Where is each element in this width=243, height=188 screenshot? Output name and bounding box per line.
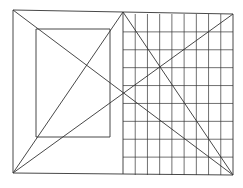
diagonal-bottom-left-to-apex (13, 12, 123, 173)
geometric-construction-diagram (0, 0, 243, 188)
frame-top-left-edge (13, 10, 123, 12)
diagonal-apex-to-bottom-right (123, 12, 233, 175)
inner-rectangle (36, 29, 110, 137)
frame-top-right-edge (123, 12, 233, 14)
